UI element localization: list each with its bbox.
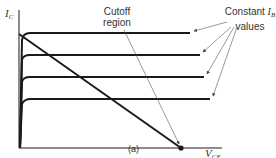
ib-curve-2 <box>20 55 200 148</box>
load-line <box>19 34 181 148</box>
constant-ib-label: Constant IB values <box>222 6 276 32</box>
y-axis-label: IC <box>5 8 13 23</box>
x-axis-label: VCE <box>205 148 221 158</box>
cutoff-point <box>178 145 183 150</box>
cutoff-region-label: Cutoff region <box>99 6 135 28</box>
ib-curve-1 <box>20 33 190 148</box>
ib-arrow-4 <box>213 27 237 96</box>
figure-caption: (a) <box>128 144 139 155</box>
ib-curve-4 <box>20 99 210 148</box>
ib-curve-3 <box>20 77 204 148</box>
ib-arrow-3 <box>207 27 234 74</box>
